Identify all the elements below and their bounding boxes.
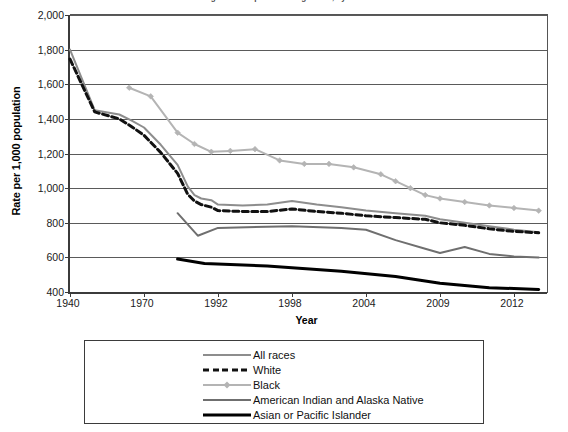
x-axis-title: Year xyxy=(68,314,545,326)
series-line xyxy=(70,50,539,233)
y-tick-label: 2,000 xyxy=(18,10,64,20)
y-tick-label: 400 xyxy=(18,287,64,297)
plot-frame-right xyxy=(547,14,548,293)
series-marker xyxy=(536,208,542,214)
y-tick-label: 1,200 xyxy=(18,149,64,159)
legend-line xyxy=(203,354,251,356)
legend-swatch-icon xyxy=(203,348,251,362)
series-marker xyxy=(511,205,517,211)
series-line xyxy=(129,88,539,211)
x-axis-tick-labels: 1940197019921998200420092012 xyxy=(68,297,545,311)
series-line xyxy=(178,259,539,289)
legend-swatch-icon xyxy=(203,378,251,392)
x-tick-label: 1998 xyxy=(260,297,320,309)
y-tick-label: 1,800 xyxy=(18,45,64,55)
legend-label: American Indian and Alaska Native xyxy=(253,395,424,406)
series-marker xyxy=(462,199,468,205)
y-tick-label: 1,600 xyxy=(18,79,64,89)
legend-item[interactable]: White xyxy=(203,362,281,378)
legend-item[interactable]: Asian or Pacific Islander xyxy=(203,407,371,423)
legend-label: Black xyxy=(253,380,280,391)
legend-line xyxy=(203,414,251,417)
legend-swatch-icon xyxy=(203,393,251,407)
y-tick-label: 600 xyxy=(18,252,64,262)
legend-item[interactable]: All races xyxy=(203,347,295,363)
legend-diamond-marker-icon xyxy=(223,381,230,388)
series-marker xyxy=(437,196,443,202)
series-marker xyxy=(487,203,493,209)
series-marker xyxy=(126,85,132,91)
legend-item[interactable]: Black xyxy=(203,377,280,393)
x-tick-label: 1992 xyxy=(186,297,246,309)
y-axis-tick-labels: 2,0001,8001,6001,4001,2001,000800600400 xyxy=(16,0,64,300)
series-marker xyxy=(351,165,357,171)
legend-label: All races xyxy=(253,350,295,361)
legend-swatch-icon xyxy=(203,408,251,422)
y-tick-label: 1,400 xyxy=(18,114,64,124)
legend: All racesWhiteBlackAmerican Indian and A… xyxy=(84,340,484,424)
chart-figure: Figure 2. Hospital discharge rates, by r… xyxy=(0,0,568,432)
x-tick-label: 2004 xyxy=(334,297,394,309)
legend-line xyxy=(203,369,251,372)
x-tick-label: 1940 xyxy=(38,297,98,309)
figure-title: Figure 2. Hospital discharge rates, by r… xyxy=(0,0,568,2)
series-line xyxy=(70,59,539,233)
legend-item[interactable]: American Indian and Alaska Native xyxy=(203,392,424,408)
legend-line xyxy=(203,399,251,401)
legend-label: White xyxy=(253,365,281,376)
plot-area xyxy=(68,15,547,294)
y-tick-label: 800 xyxy=(18,218,64,228)
legend-label: Asian or Pacific Islander xyxy=(253,410,371,421)
legend-swatch-icon xyxy=(203,363,251,377)
series-marker xyxy=(326,161,332,167)
series-lines xyxy=(70,15,547,292)
series-marker xyxy=(302,161,308,167)
series-line xyxy=(178,213,539,257)
x-tick-label: 2009 xyxy=(408,297,468,309)
x-tick-label: 1970 xyxy=(112,297,172,309)
y-tick-label: 1,000 xyxy=(18,183,64,193)
x-tick-label: 2012 xyxy=(482,297,542,309)
series-marker xyxy=(228,148,234,154)
